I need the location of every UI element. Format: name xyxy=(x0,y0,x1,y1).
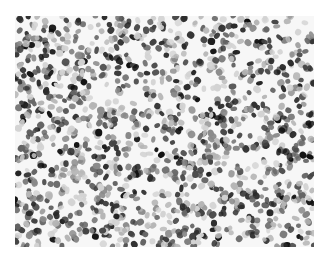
cell-nucleus xyxy=(31,54,37,62)
cell-nucleus xyxy=(205,171,212,177)
cell-nucleus xyxy=(272,215,279,222)
cell-nucleus xyxy=(242,95,248,102)
cell-nucleus xyxy=(243,38,253,48)
cell-nucleus xyxy=(246,89,253,96)
cell-nucleus xyxy=(106,25,116,35)
cell-nucleus xyxy=(35,114,41,119)
cell-nucleus xyxy=(199,35,209,44)
cell-nucleus xyxy=(114,70,122,76)
cell-nucleus xyxy=(296,223,302,228)
cell-nucleus xyxy=(271,19,279,24)
cell-nucleus xyxy=(41,17,50,26)
cell-nucleus xyxy=(122,236,130,244)
cell-nucleus xyxy=(125,132,131,139)
cell-nucleus xyxy=(109,133,118,142)
cell-nucleus xyxy=(231,138,237,144)
cell-nucleus xyxy=(74,28,81,35)
cell-nucleus xyxy=(245,16,251,19)
cell-nucleus xyxy=(53,181,60,188)
cell-nucleus xyxy=(294,41,302,49)
cell-nucleus xyxy=(167,27,174,34)
cell-nucleus xyxy=(278,229,288,239)
cell-nucleus xyxy=(303,234,311,241)
cell-nucleus xyxy=(165,212,173,221)
cell-nucleus xyxy=(92,16,98,19)
cell-nucleus xyxy=(140,145,148,149)
cell-nucleus xyxy=(139,238,146,246)
cell-nucleus xyxy=(142,125,151,134)
cell-nucleus xyxy=(237,217,245,223)
cell-nucleus xyxy=(133,23,141,32)
cell-nucleus xyxy=(276,222,283,229)
cell-nucleus xyxy=(15,233,22,239)
cell-nucleus xyxy=(129,100,138,107)
cell-nucleus xyxy=(302,240,310,246)
cell-nucleus xyxy=(209,48,217,55)
microscopy-image xyxy=(15,16,314,247)
cell-nucleus xyxy=(164,201,173,209)
cell-nucleus xyxy=(151,79,156,86)
cell-nucleus xyxy=(255,80,263,86)
cell-nucleus xyxy=(98,27,106,35)
cell-nucleus xyxy=(154,147,160,153)
cell-nucleus xyxy=(151,136,156,143)
cell-nucleus xyxy=(125,163,133,171)
cell-nucleus xyxy=(212,83,222,93)
cell-nucleus xyxy=(277,48,284,55)
cell-nucleus xyxy=(310,230,314,237)
cell-nucleus xyxy=(20,72,28,79)
cell-nucleus xyxy=(122,151,130,159)
cell-nucleus xyxy=(61,135,70,143)
cell-nucleus xyxy=(109,243,116,247)
cell-nucleus xyxy=(308,187,314,195)
cell-nucleus xyxy=(87,24,94,31)
cell-nucleus xyxy=(141,132,149,138)
cell-nucleus xyxy=(254,58,262,65)
cell-nucleus xyxy=(215,101,221,106)
cell-nucleus xyxy=(228,170,236,178)
cell-nucleus xyxy=(15,181,23,189)
cell-nucleus xyxy=(48,205,54,210)
cell-nucleus xyxy=(133,78,139,84)
cell-nucleus xyxy=(297,127,305,135)
cell-nucleus xyxy=(189,223,195,229)
cell-nucleus xyxy=(46,110,53,119)
cell-nucleus xyxy=(249,172,258,181)
cell-nucleus xyxy=(153,122,160,129)
cell-nucleus xyxy=(184,191,191,198)
cell-nucleus xyxy=(198,16,205,20)
cell-nucleus xyxy=(219,128,228,137)
cell-nucleus xyxy=(244,165,252,173)
cell-nucleus xyxy=(78,45,84,50)
cell-nucleus xyxy=(219,16,227,23)
cell-nucleus xyxy=(182,58,189,66)
cell-nucleus xyxy=(85,94,94,102)
cell-nucleus xyxy=(261,94,268,100)
cell-nucleus xyxy=(213,160,221,167)
cell-nucleus xyxy=(67,212,73,219)
cell-nucleus xyxy=(290,119,297,126)
cell-nucleus xyxy=(48,104,55,110)
cell-nucleus xyxy=(236,132,244,140)
cell-nucleus xyxy=(303,159,309,164)
cell-nucleus xyxy=(259,193,265,199)
cell-nucleus xyxy=(43,62,49,68)
cell-nucleus xyxy=(269,87,276,94)
cell-nucleus xyxy=(231,62,236,68)
cell-nucleus xyxy=(257,179,264,186)
cell-nucleus xyxy=(251,161,260,170)
cell-nucleus xyxy=(163,52,170,58)
cell-nucleus xyxy=(140,189,147,196)
cell-nucleus xyxy=(211,220,217,227)
cell-nucleus xyxy=(55,105,64,114)
cell-nucleus xyxy=(59,243,64,247)
cell-nuclei-field xyxy=(15,16,314,247)
cell-nucleus xyxy=(89,41,95,46)
cell-nucleus xyxy=(247,133,253,139)
cell-nucleus xyxy=(297,227,305,235)
cell-nucleus xyxy=(82,106,89,114)
cell-nucleus xyxy=(291,215,300,222)
cell-nucleus xyxy=(221,160,228,167)
cell-nucleus xyxy=(184,94,191,100)
cell-nucleus xyxy=(230,16,237,19)
